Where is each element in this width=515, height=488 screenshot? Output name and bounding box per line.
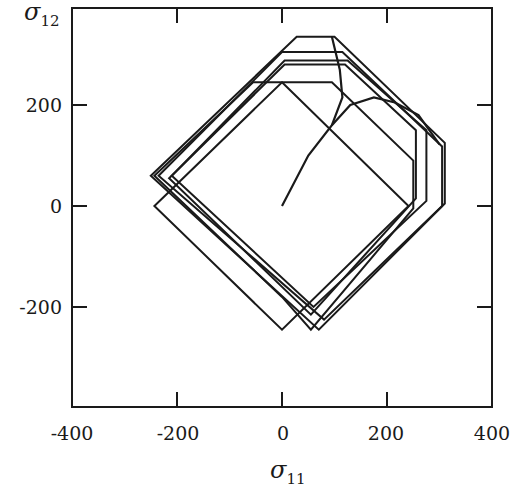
x-tick-label: 0 — [277, 422, 289, 444]
x-tick-labels: -400 -200 0 200 400 — [51, 422, 510, 444]
y-axis-label-main: σ — [24, 0, 41, 26]
chart: 200 0 -200 -400 -200 0 200 400 σ12 σ11 — [0, 0, 515, 488]
y-tick-label: 0 — [50, 195, 62, 217]
x-axis-label: σ11 — [270, 456, 305, 488]
x-tick-label: -400 — [51, 422, 94, 444]
y-axis-label: σ12 — [24, 0, 59, 30]
y-tick-label: -200 — [19, 296, 62, 318]
stress-path-branch-right — [332, 97, 440, 144]
y-axis-label-sub: 12 — [40, 12, 59, 30]
yield-surface-3 — [172, 61, 427, 307]
x-tick-label: 200 — [368, 422, 404, 444]
yield-surface-4 — [159, 52, 443, 320]
x-tick-label: 400 — [474, 422, 510, 444]
yield-surface-2 — [169, 65, 416, 315]
x-tick-label: -200 — [157, 422, 200, 444]
series-layer — [151, 37, 445, 330]
stress-path-branch-up — [282, 37, 342, 206]
x-axis-label-sub: 11 — [286, 470, 305, 488]
y-tick-label: 200 — [26, 94, 62, 116]
y-tick-labels: 200 0 -200 — [19, 94, 62, 318]
yield-surface-5 — [151, 37, 445, 330]
x-axis-label-main: σ — [270, 456, 287, 484]
